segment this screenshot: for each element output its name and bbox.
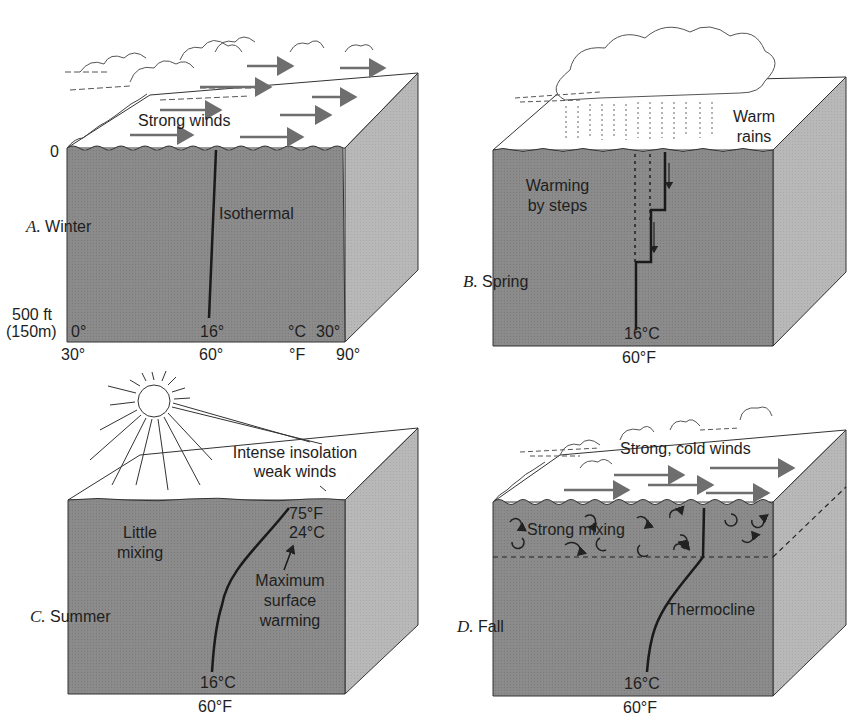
panel-a-letter: A. bbox=[26, 217, 41, 236]
axis-c-mid: 16° bbox=[200, 323, 224, 341]
axis-c-unit: °C bbox=[288, 323, 306, 341]
panel-b-letter: B. bbox=[463, 272, 478, 291]
panel-d-profile-label: Thermocline bbox=[667, 601, 755, 619]
panel-b-season: Spring bbox=[482, 273, 528, 290]
panel-a-season: Winter bbox=[45, 218, 91, 235]
panel-d-letter: D. bbox=[457, 617, 474, 636]
panel-d-title: D. Fall bbox=[457, 617, 504, 637]
panel-c-bottom-f: 60°F bbox=[198, 698, 232, 716]
panel-c-note-2: surface bbox=[245, 592, 335, 610]
axis-c-min: 0° bbox=[71, 323, 86, 341]
depth-top-label: 0 bbox=[50, 143, 59, 161]
panel-d-surface-label: Strong, cold winds bbox=[620, 440, 751, 458]
panel-b-bottom-f: 60°F bbox=[622, 349, 656, 367]
panel-c-top-f: 75°F bbox=[289, 505, 323, 523]
panel-d-bottom-c: 16°C bbox=[624, 675, 660, 693]
panel-a-surface-label: Strong winds bbox=[138, 112, 231, 130]
panel-c-mixing-label-1: Little bbox=[105, 524, 175, 542]
axis-f-unit: °F bbox=[289, 346, 305, 364]
panel-c-surface-label-2: weak winds bbox=[215, 463, 375, 481]
panel-c-bottom-c: 16°C bbox=[200, 674, 236, 692]
axis-f-min: 30° bbox=[61, 346, 85, 364]
panel-d-bottom-f: 60°F bbox=[623, 699, 657, 717]
panel-c-note-1: Maximum bbox=[245, 572, 335, 590]
axis-f-max: 90° bbox=[336, 346, 360, 364]
rain-cloud-icon bbox=[515, 27, 775, 102]
panel-b-surface-label-1: Warm bbox=[724, 108, 784, 126]
axis-c-max: 30° bbox=[316, 323, 340, 341]
panel-c-season: Summer bbox=[50, 608, 110, 625]
panel-b-surface-label-2: rains bbox=[724, 128, 784, 146]
panel-c-surface-label-1: Intense insolation bbox=[215, 444, 375, 462]
panel-d-mixing-label: Strong mixing bbox=[527, 521, 625, 539]
axis-f-mid: 60° bbox=[199, 346, 223, 364]
panel-c-top-c: 24°C bbox=[289, 524, 325, 542]
panel-c-note-3: warming bbox=[245, 612, 335, 630]
panel-a-profile-label: Isothermal bbox=[219, 205, 294, 223]
panel-c-letter: C. bbox=[30, 607, 46, 626]
depth-bottom-metric-label: (150m) bbox=[6, 323, 57, 341]
panel-b-process-label-2: by steps bbox=[515, 197, 600, 215]
panel-a-title: A. Winter bbox=[26, 217, 91, 237]
panel-b-process-label-1: Warming bbox=[515, 177, 600, 195]
panel-b-title: B. Spring bbox=[463, 272, 528, 292]
panel-c-title: C. Summer bbox=[30, 607, 111, 627]
depth-bottom-label: 500 ft bbox=[12, 306, 52, 324]
panel-c-mixing-label-2: mixing bbox=[105, 544, 175, 562]
panel-a-winter bbox=[65, 37, 418, 342]
panel-d-season: Fall bbox=[478, 618, 504, 635]
panel-b-bottom-c: 16°C bbox=[624, 325, 660, 343]
